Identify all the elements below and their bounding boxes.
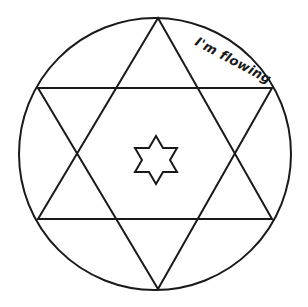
- mandala-figure: [0, 0, 308, 307]
- mandala-canvas: I'm flowing: [0, 0, 308, 307]
